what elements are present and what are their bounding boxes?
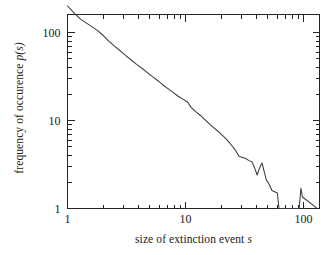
x-tick-label: 1: [65, 212, 71, 226]
plot-frame: [68, 15, 320, 209]
x-tick-label: 100: [295, 212, 313, 226]
extinction-distribution-curve: [68, 6, 317, 208]
data-series-group: [68, 6, 317, 208]
x-tick-label: 10: [180, 212, 192, 226]
x-axis-title: size of extinction event s: [67, 229, 320, 247]
y-axis-title-plain: frequency of occurence: [13, 60, 25, 173]
y-tick-label: 100: [43, 26, 61, 40]
y-tick-label: 1: [55, 202, 61, 216]
x-axis-title-plain: size of extinction event: [135, 233, 247, 245]
x-axis-title-italic: s: [247, 233, 252, 245]
y-tick-label: 10: [49, 114, 61, 128]
figure-container: 110100110100 frequency of occurence p(s)…: [0, 0, 336, 255]
y-axis-title-italic: p(s): [13, 42, 25, 60]
axis-ticks: [68, 15, 320, 209]
tick-labels: 110100110100: [43, 26, 313, 226]
chart-plot: 110100110100: [0, 0, 336, 255]
y-axis-title: frequency of occurence p(s): [8, 0, 30, 215]
